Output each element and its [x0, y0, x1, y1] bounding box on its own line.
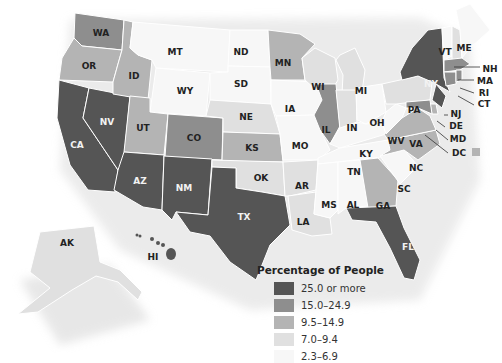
svg-text:MN: MN: [275, 58, 292, 68]
svg-text:WV: WV: [388, 136, 405, 146]
svg-text:DC: DC: [452, 148, 466, 158]
legend-label: 15.0–24.9: [301, 300, 351, 311]
legend-item: 9.5–14.9: [274, 314, 384, 331]
svg-text:NY: NY: [424, 79, 439, 89]
state-ct: [444, 72, 456, 86]
svg-text:CT: CT: [478, 99, 492, 109]
legend-label: 2.3–6.9: [301, 351, 338, 362]
svg-text:MD: MD: [450, 134, 466, 144]
svg-text:TN: TN: [347, 167, 361, 177]
svg-text:RI: RI: [479, 88, 489, 98]
legend-swatch: [274, 282, 294, 295]
svg-text:AK: AK: [60, 238, 75, 248]
svg-text:UT: UT: [136, 123, 150, 133]
svg-text:AR: AR: [295, 181, 309, 191]
svg-text:CA: CA: [70, 140, 84, 150]
legend-swatch: [274, 350, 294, 363]
svg-text:NJ: NJ: [451, 109, 462, 119]
svg-text:IL: IL: [321, 125, 330, 135]
legend-label: 9.5–14.9: [301, 317, 344, 328]
svg-text:ND: ND: [233, 47, 248, 57]
svg-text:NC: NC: [409, 163, 424, 173]
svg-text:NV: NV: [100, 117, 115, 127]
legend-label: 25.0 or more: [301, 283, 366, 294]
svg-text:PA: PA: [408, 105, 421, 115]
svg-text:WI: WI: [311, 82, 324, 92]
svg-text:OH: OH: [369, 118, 384, 128]
svg-text:WA: WA: [93, 28, 110, 38]
state-ms: [314, 162, 338, 218]
state-ar: [283, 160, 318, 196]
svg-text:NE: NE: [239, 112, 253, 122]
svg-text:AZ: AZ: [133, 176, 147, 186]
svg-text:ID: ID: [129, 71, 140, 81]
svg-text:HI: HI: [148, 252, 159, 262]
svg-text:KY: KY: [359, 149, 373, 159]
svg-text:KS: KS: [245, 143, 258, 153]
svg-text:SD: SD: [234, 79, 248, 89]
svg-text:MT: MT: [167, 47, 183, 57]
legend-title: Percentage of People: [257, 264, 384, 276]
svg-text:TX: TX: [237, 212, 250, 222]
legend-swatch: [274, 333, 294, 346]
svg-text:CO: CO: [187, 133, 202, 143]
legend-item: 15.0–24.9: [274, 297, 384, 314]
svg-text:LA: LA: [297, 217, 310, 227]
dc-swatch: [472, 148, 480, 156]
svg-text:IN: IN: [347, 123, 358, 133]
svg-text:MS: MS: [321, 200, 336, 210]
legend-label: 7.0–9.4: [301, 334, 338, 345]
svg-text:OR: OR: [82, 61, 97, 71]
svg-text:OK: OK: [254, 173, 270, 183]
svg-text:DE: DE: [449, 121, 463, 131]
svg-text:NH: NH: [482, 64, 497, 74]
legend: Percentage of People 25.0 or more 15.0–2…: [257, 264, 384, 363]
legend-swatch: [274, 316, 294, 329]
legend-item: 7.0–9.4: [274, 331, 384, 348]
svg-text:GA: GA: [376, 201, 390, 211]
svg-text:FL: FL: [402, 242, 414, 252]
svg-text:NM: NM: [176, 183, 193, 193]
svg-text:IA: IA: [285, 104, 295, 114]
svg-text:MI: MI: [355, 86, 367, 96]
svg-text:MO: MO: [292, 141, 309, 151]
svg-text:SC: SC: [397, 184, 410, 194]
svg-text:VA: VA: [409, 139, 422, 149]
svg-text:ME: ME: [456, 43, 471, 53]
legend-swatch: [274, 299, 294, 312]
legend-item: 25.0 or more: [274, 280, 384, 297]
us-map: WA OR CA NV ID MT WY UT AZ CO NM ND SD N…: [0, 0, 502, 363]
svg-text:AL: AL: [347, 200, 360, 210]
svg-text:WY: WY: [177, 86, 194, 96]
legend-item: 2.3–6.9: [274, 348, 384, 363]
svg-text:MA: MA: [477, 76, 493, 86]
svg-text:VT: VT: [438, 47, 452, 57]
